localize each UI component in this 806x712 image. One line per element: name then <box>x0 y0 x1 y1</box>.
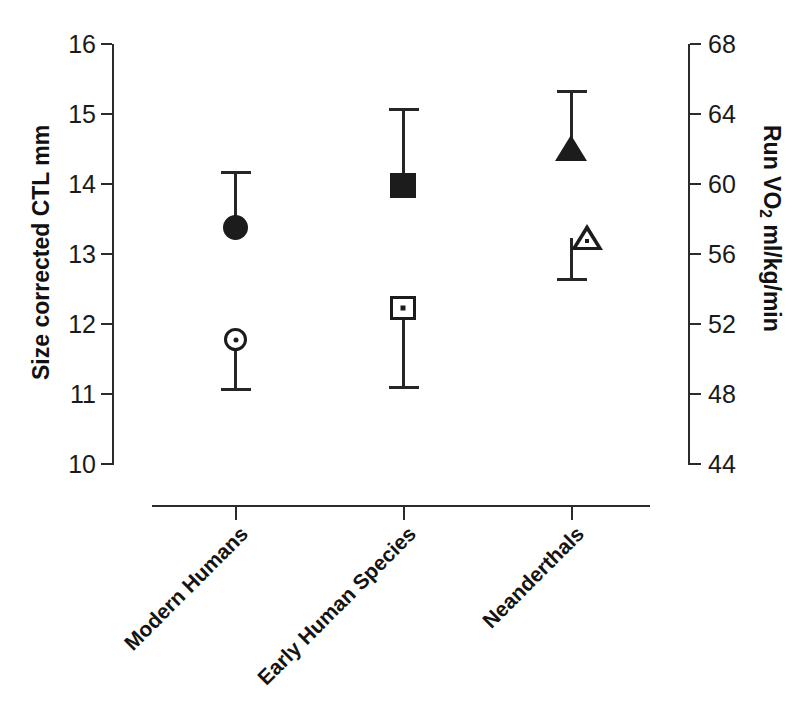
left-axis-tick <box>101 393 112 395</box>
right-axis-title: Run VO2 ml/kg/min <box>760 125 783 332</box>
left-axis-tick-label: 15 <box>58 102 96 127</box>
x-axis-category-label-early-human-species: Early Human Species <box>254 523 420 689</box>
right-axis-tick-label: 68 <box>708 32 736 57</box>
right-axis-tick-label: 64 <box>708 102 736 127</box>
left-axis-title: Size corrected CTL mm <box>30 125 53 380</box>
left-axis-tick-label: 13 <box>58 242 96 267</box>
right-axis-tick <box>690 183 701 185</box>
right-axis-tick <box>690 463 701 465</box>
x-axis-line <box>152 505 650 507</box>
error-bar-cap-neanderthals-upper <box>557 90 587 93</box>
right-axis-tick <box>690 113 701 115</box>
error-bar-cap-modern-humans-lower <box>221 388 251 391</box>
data-point-neanderthals-open-triangle <box>571 224 603 250</box>
right-axis-title-prefix: Run VO <box>759 125 785 209</box>
x-axis-tick <box>235 507 237 520</box>
left-axis-tick <box>101 183 112 185</box>
x-axis-category-label-neanderthals: Neanderthals <box>478 523 587 632</box>
right-axis-tick-label: 56 <box>708 242 736 267</box>
left-axis-tick-label: 16 <box>58 32 96 57</box>
left-axis-line <box>112 44 114 465</box>
left-axis-tick <box>101 253 112 255</box>
error-bar-cap-neanderthals-lower <box>557 278 587 281</box>
data-point-neanderthals-filled-triangle <box>555 135 587 161</box>
right-axis-tick-label: 60 <box>708 172 736 197</box>
left-axis-tick-label: 10 <box>58 452 96 477</box>
left-axis-tick-label: 12 <box>58 312 96 337</box>
right-axis-tick <box>690 393 701 395</box>
x-axis-tick <box>403 507 405 520</box>
data-point-modern-humans-open-circle <box>224 328 247 351</box>
right-axis-tick-label: 52 <box>708 312 736 337</box>
left-axis-tick <box>101 113 112 115</box>
error-bar-cap-early-human-species-lower <box>389 386 419 389</box>
right-axis-tick <box>690 253 701 255</box>
left-axis-tick-label: 14 <box>58 172 96 197</box>
right-axis-title-suffix: ml/kg/min <box>759 218 785 332</box>
right-axis-tick <box>690 43 701 45</box>
error-bar-cap-modern-humans-upper <box>221 171 251 174</box>
left-axis-tick <box>101 463 112 465</box>
chart-figure: 16 15 14 13 12 11 10 Size corrected CTL … <box>0 0 806 712</box>
x-axis-category-label-modern-humans: Modern Humans <box>120 523 251 654</box>
right-axis-tick-label: 44 <box>708 452 736 477</box>
right-axis-title-subscript: 2 <box>757 209 774 218</box>
x-axis-tick <box>571 507 573 520</box>
error-bar-cap-early-human-species-upper <box>389 108 419 111</box>
right-axis-tick-label: 48 <box>708 382 736 407</box>
left-axis-tick-label: 11 <box>58 382 96 407</box>
data-point-early-human-species-filled-square <box>390 173 416 198</box>
left-axis-tick <box>101 43 112 45</box>
data-point-modern-humans-filled-circle <box>223 215 248 240</box>
right-axis-tick <box>690 323 701 325</box>
data-point-early-human-species-open-square <box>390 296 416 320</box>
left-axis-tick <box>101 323 112 325</box>
